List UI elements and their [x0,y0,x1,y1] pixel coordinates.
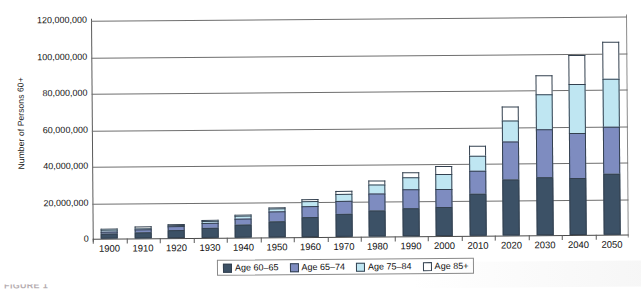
bar-segment-age-65-74 [268,212,285,221]
bar-segment-age-75-84 [502,120,519,141]
bar-segment-age-60-65 [268,221,285,238]
gridline [91,17,627,22]
y-tick-label: 120,000,000 [1,15,87,26]
bar-segment-age-60-65 [402,208,419,236]
bar-segment-age-60-65 [603,174,620,235]
bar-1970 [335,191,352,237]
legend-swatch-icon [356,262,365,271]
bar-1960 [302,199,319,237]
legend-label: Age 60–65 [235,262,279,272]
y-axis-tick-labels: 120,000,000100,000,00080,000,00060,000,0… [0,2,89,289]
bar-segment-age-60-65 [201,228,218,238]
legend-label: Age 75–84 [368,261,412,271]
bar-segment-age-85- [569,55,586,83]
bar-2050 [602,41,621,235]
bar-segment-age-60-65 [168,230,185,238]
bar-segment-age-85- [435,166,452,174]
legend-label: Age 65–74 [301,262,345,272]
plot-area [91,17,629,240]
y-tick-label: 0 [3,234,89,245]
bar-2030 [535,76,553,236]
bar-2000 [435,166,453,236]
legend-swatch-icon [223,263,232,272]
bar-segment-age-85- [602,41,619,79]
bar-segment-age-60-65 [101,234,118,239]
bar-segment-age-75-84 [402,177,419,190]
bar-segment-age-65-74 [536,129,553,177]
x-tick-label: 2050 [589,239,635,250]
bar-segment-age-60-65 [369,210,386,237]
bar-segment-age-60-65 [302,217,319,237]
bar-1920 [168,224,185,238]
bar-1980 [369,180,386,236]
bar-segment-age-65-74 [569,133,586,178]
y-tick-label: 80,000,000 [2,88,88,99]
bar-2010 [469,145,487,235]
bar-segment-age-65-74 [469,171,486,194]
gridline [91,53,627,58]
bar-segment-age-60-65 [335,214,352,237]
bar-segment-age-85- [535,76,552,94]
bar-segment-age-60-65 [469,194,486,236]
y-tick-label: 40,000,000 [2,161,88,172]
bar-1910 [134,227,151,239]
bar-1950 [268,207,285,237]
bar-segment-age-75-84 [469,155,486,171]
bar-segment-age-60-65 [536,177,553,236]
gridlines [91,17,627,21]
legend-item: Age 75–84 [356,261,412,271]
legend-item: Age 65–74 [289,262,345,272]
bar-segment-age-65-74 [436,189,453,207]
bar-1940 [235,215,252,238]
legend-item: Age 60–65 [223,262,279,272]
bar-1930 [201,220,218,238]
bar-segment-age-65-74 [302,206,319,217]
bar-segment-age-60-65 [235,225,252,238]
bar-segment-age-65-74 [603,127,620,174]
y-tick-label: 100,000,000 [1,51,87,62]
bar-segment-age-60-65 [436,207,453,236]
bar-segment-age-65-74 [335,201,352,214]
page-shading [411,260,641,288]
bar-segment-age-65-74 [502,141,519,179]
bar-segment-age-75-84 [602,79,619,127]
bar-segment-age-75-84 [569,83,586,132]
bar-segment-age-75-84 [535,94,552,130]
bar-segment-age-60-65 [570,177,587,235]
bar-segment-age-60-65 [503,180,520,236]
bar-segment-age-65-74 [402,190,419,208]
y-tick-label: 60,000,000 [2,124,88,135]
legend-swatch-icon [289,263,298,272]
bar-segment-age-65-74 [369,194,386,211]
bar-1900 [101,229,118,239]
bar-1990 [402,172,420,237]
bar-2040 [569,55,587,235]
bar-2020 [502,107,520,236]
bar-segment-age-75-84 [369,184,386,194]
bar-segment-age-75-84 [435,174,452,189]
y-tick-label: 20,000,000 [2,197,88,208]
bar-segment-age-85- [502,107,519,121]
bar-segment-age-85- [469,145,486,155]
x-axis-tick-labels: 1900191019201930194019501960197019801990… [93,239,629,259]
figure-caption: FIGURE 1 [4,283,194,289]
bar-segment-age-60-65 [134,232,151,238]
figure-caption-text: FIGURE 1 [4,283,194,289]
